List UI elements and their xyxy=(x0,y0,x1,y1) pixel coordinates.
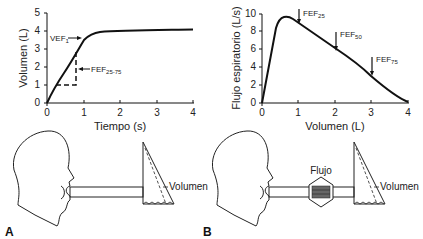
mouthpiece-tube-icon xyxy=(70,187,143,197)
vef1-arrowhead-icon xyxy=(77,36,82,40)
x-axis-label: Volumen (L) xyxy=(305,120,364,132)
vef1-label: VEF1 xyxy=(50,34,70,44)
flow-volume-chart: 0 2 4 6 8 10 0 1 2 3 4 Volumen (L) Flujo… xyxy=(230,6,411,132)
fef-25-75-arrowhead-icon xyxy=(78,67,83,71)
x-tick-0: 0 xyxy=(259,107,265,118)
x-tick-0: 0 xyxy=(44,107,50,118)
y-tick-3: 3 xyxy=(34,43,40,54)
flow-label: Flujo xyxy=(310,165,332,176)
x-tick-2: 2 xyxy=(117,107,123,118)
volume-label: Volumen xyxy=(169,181,208,192)
ear-icon xyxy=(260,186,263,199)
x-axis-label: Tiempo (s) xyxy=(94,120,146,132)
y-tick-8: 8 xyxy=(250,25,256,36)
fef50-label: FEF50 xyxy=(340,30,362,40)
spirometer-bell-icon xyxy=(354,142,385,204)
figure-canvas: 0 1 2 3 4 5 0 1 2 3 4 Tiempo (s) Volumen… xyxy=(0,0,423,239)
volume-label: Volumen xyxy=(380,181,419,192)
y-tick-6: 6 xyxy=(250,43,256,54)
fef25-label: FEF25 xyxy=(303,9,325,19)
y-tick-2: 2 xyxy=(34,61,40,72)
fef-25-75-label: FEF25-75 xyxy=(91,65,122,75)
panel-letter-b: B xyxy=(203,225,212,239)
y-axis-label: Flujo espiratorio (L/s) xyxy=(230,6,242,109)
head-outline-icon xyxy=(13,131,74,226)
volume-time-chart: 0 1 2 3 4 5 0 1 2 3 4 Tiempo (s) Volumen… xyxy=(17,7,196,132)
y-tick-4: 4 xyxy=(250,61,256,72)
x-tick-4: 4 xyxy=(405,107,411,118)
y-tick-5: 5 xyxy=(34,7,40,18)
y-tick-10: 10 xyxy=(245,8,257,19)
spirometer-illustration-b: Flujo Volumen B xyxy=(203,131,419,239)
x-tick-1: 1 xyxy=(295,107,301,118)
ear-icon xyxy=(61,186,64,199)
x-tick-3: 3 xyxy=(368,107,374,118)
flow-sensor-core xyxy=(312,186,330,198)
y-tick-0: 0 xyxy=(250,97,256,108)
volume-dashed-line xyxy=(145,148,166,204)
fef75-label: FEF75 xyxy=(376,55,398,65)
y-tick-4: 4 xyxy=(34,25,40,36)
y-tick-2: 2 xyxy=(250,79,256,90)
x-tick-4: 4 xyxy=(190,107,196,118)
x-tick-3: 3 xyxy=(154,107,160,118)
spirometer-bell-icon xyxy=(143,142,174,204)
head-outline-icon xyxy=(212,131,273,226)
spirometer-illustration-a: Volumen A xyxy=(5,131,208,239)
y-tick-1: 1 xyxy=(34,79,40,90)
x-tick-1: 1 xyxy=(81,107,87,118)
panel-letter-a: A xyxy=(5,225,14,239)
volume-dashed-line xyxy=(356,148,377,204)
y-axis-label: Volumen (L) xyxy=(17,28,29,87)
y-tick-0: 0 xyxy=(34,97,40,108)
x-tick-2: 2 xyxy=(332,107,338,118)
